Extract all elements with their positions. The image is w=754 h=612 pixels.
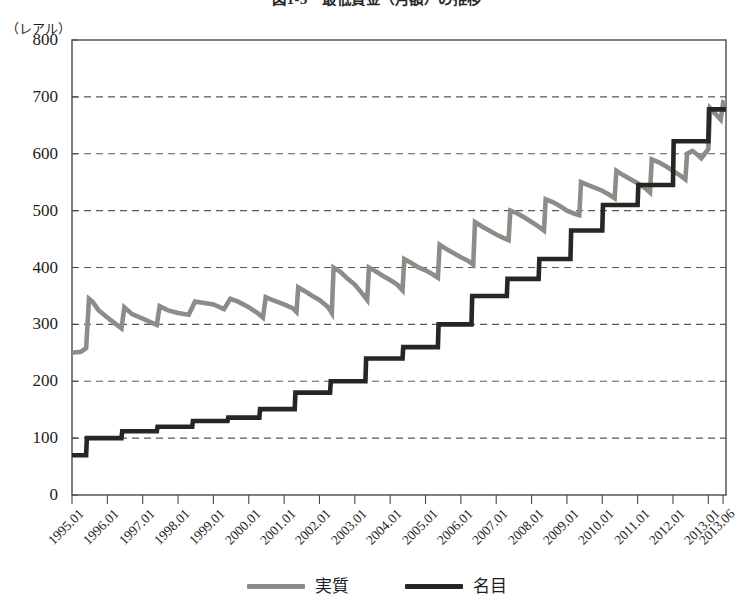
- legend-label-nominal: 名目: [473, 578, 507, 595]
- legend-label-real: 実質: [315, 578, 349, 595]
- x-axis-tick-labels: 1995.011996.011997.011998.011999.012000.…: [0, 0, 754, 612]
- legend-swatch-nominal: [405, 584, 463, 589]
- figure-container: 図1-3 最低賃金（月額）の推移 （レアル） 80070060050040030…: [0, 0, 754, 612]
- legend-item-real[interactable]: 実質: [247, 578, 349, 595]
- legend-swatch-real: [247, 584, 305, 589]
- chart-legend: 実質名目: [0, 578, 754, 595]
- legend-item-nominal[interactable]: 名目: [405, 578, 507, 595]
